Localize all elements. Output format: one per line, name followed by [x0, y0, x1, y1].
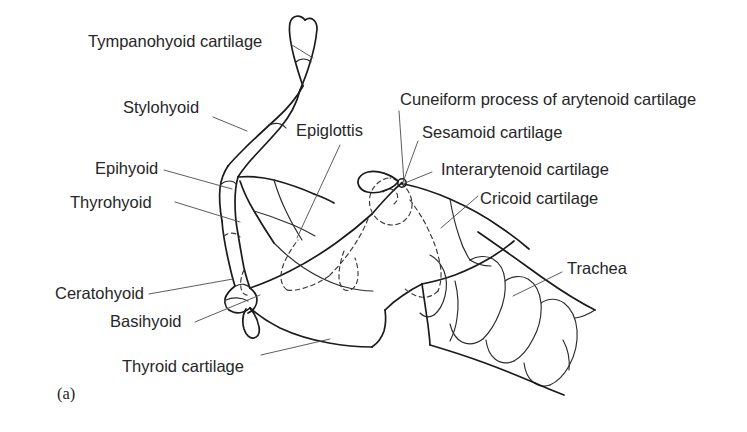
label-epiglottis: Epiglottis	[296, 122, 363, 139]
thyrohyoid-shape	[222, 221, 250, 288]
label-sesamoid-cartilage: Sesamoid cartilage	[422, 124, 562, 141]
leader-stylohyoid	[213, 117, 247, 131]
label-trachea: Trachea	[567, 260, 627, 277]
stylohyoid-shape	[228, 86, 303, 177]
label-basihyoid: Basihyoid	[110, 313, 182, 330]
panel-letter: (a)	[57, 384, 75, 404]
leader-interarytenoid	[405, 172, 432, 183]
leader-sesamoid	[403, 141, 418, 182]
leader-ceratohyoid	[149, 279, 233, 294]
trachea-shape	[430, 232, 595, 395]
leader-thyroid-cartilage	[261, 339, 330, 355]
anatomy-figure-panel-a: Tympanohyoid cartilage Stylohyoid Epihyo…	[0, 0, 747, 432]
leader-cuneiform	[399, 111, 404, 182]
label-thyrohyoid: Thyrohyoid	[70, 194, 152, 211]
epiglottis-shape	[238, 177, 334, 243]
thyroid-cartilage-shape	[250, 183, 422, 347]
larynx-hyoid-line-drawing	[0, 0, 747, 432]
leader-cricoid	[441, 196, 478, 228]
label-stylohyoid: Stylohyoid	[123, 99, 199, 116]
leader-trachea	[513, 272, 562, 296]
leader-tympanohyoid	[292, 45, 313, 58]
leader-epiglottis	[297, 145, 340, 238]
label-ceratohyoid: Ceratohyoid	[55, 285, 144, 302]
label-epihyoid: Epihyoid	[95, 160, 158, 177]
label-tympanohyoid-cartilage: Tympanohyoid cartilage	[88, 33, 262, 50]
cricoid-trachea-junction-shape	[420, 255, 446, 345]
label-interarytenoid-cartilage: Interarytenoid cartilage	[441, 161, 609, 178]
label-cuneiform-process: Cuneiform process of arytenoid cartilage	[400, 91, 696, 108]
leader-thyrohyoid	[175, 202, 240, 222]
label-thyroid-cartilage: Thyroid cartilage	[122, 358, 244, 375]
label-cricoid-cartilage: Cricoid cartilage	[480, 190, 598, 207]
tympanohyoid-cartilage-shape	[289, 16, 317, 90]
